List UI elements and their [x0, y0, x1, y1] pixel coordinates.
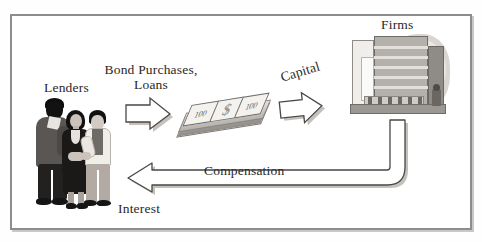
arrow-compensation-interest	[128, 120, 408, 195]
arrow-bond-purchases	[126, 98, 173, 132]
label-bond-purchases-line1: Bond Purchases,	[105, 62, 198, 77]
arrow-layer	[0, 0, 482, 242]
label-lenders: Lenders	[44, 80, 89, 96]
label-bond-purchases-line2: Loans	[134, 77, 168, 92]
label-compensation: Compensation	[204, 163, 284, 179]
arrow-capital	[279, 90, 327, 128]
label-interest: Interest	[118, 201, 160, 217]
diagram-canvas: 100 $ 100	[0, 0, 482, 242]
label-bond-purchases: Bond Purchases, Loans	[103, 62, 199, 92]
label-firms: Firms	[381, 17, 414, 33]
